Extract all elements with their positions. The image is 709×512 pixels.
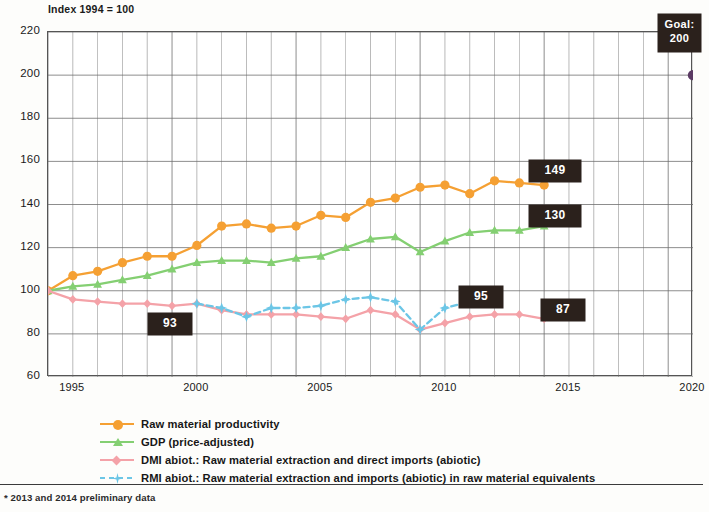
x-axis-tick-2005: 2005 [290,381,350,393]
data-point-marker [69,295,77,304]
data-point-marker [365,292,376,303]
badge-dmi-1999: 93 [148,313,192,335]
data-point-marker [515,178,524,187]
chart-axis-title: Index 1994 = 100 [48,3,134,15]
x-axis-tick-1995: 1995 [42,381,102,393]
data-point-marker [391,193,400,202]
data-point-marker [490,176,499,185]
data-point-marker [341,213,350,222]
data-point-marker [340,294,351,305]
legend-label: Raw material productivity [141,418,280,430]
legend-label: DMI abiot.: Raw material extraction and … [141,454,481,466]
data-point-marker [168,301,176,310]
data-point-marker [291,221,300,230]
data-point-marker [440,303,451,314]
goal-point-marker [688,70,693,80]
data-point-marker [315,300,326,311]
legend-key-icon [100,417,134,431]
badge-dmi-2014: 87 [541,299,585,321]
badge-gdp-2014: 130 [529,205,581,227]
y-axis-tick-160: 160 [0,153,40,165]
badge-productivity-2014: 149 [529,160,581,182]
x-axis-tick-2010: 2010 [414,381,474,393]
y-axis-tick-180: 180 [0,110,40,122]
legend-label: GDP (price-adjusted) [141,436,254,448]
chart-legend: Raw material productivityGDP (price-adju… [100,415,660,487]
data-point-marker [515,310,523,319]
data-point-marker [118,299,126,308]
data-point-marker [192,241,201,250]
legend-key-icon [100,435,134,449]
data-point-marker [366,198,375,207]
y-axis-tick-220: 220 [0,24,40,36]
y-axis-tick-140: 140 [0,197,40,209]
chart-footnote: * 2013 and 2014 preliminary data [4,492,155,503]
goal-badge-label: Goal: [658,18,701,32]
legend-marker-star [112,473,123,484]
data-point-marker [93,267,102,276]
data-point-marker [167,252,176,261]
legend-item-raw-material-productivity[interactable]: Raw material productivity [100,415,660,433]
data-point-marker [242,219,251,228]
data-point-marker [143,299,151,308]
legend-key-icon [100,471,134,485]
data-point-marker [465,189,474,198]
y-axis-tick-200: 200 [0,67,40,79]
badge-goal-2020: Goal:200 [658,14,701,52]
data-point-marker [316,211,325,220]
badge-rmi-2011: 95 [459,286,503,308]
data-point-marker [491,310,499,319]
data-point-marker [118,258,127,267]
x-axis-tick-2015: 2015 [538,381,598,393]
legend-marker-diamond [112,456,122,466]
legend-item-dmi[interactable]: DMI abiot.: Raw material extraction and … [100,451,660,469]
data-point-marker [391,310,399,319]
goal-badge-value: 200 [658,32,701,46]
legend-key-icon [100,453,134,467]
data-point-marker [191,298,202,309]
data-point-marker [342,314,350,323]
y-axis-tick-120: 120 [0,240,40,252]
series-gdp-price-adjusted- [48,221,549,294]
data-point-marker [267,224,276,233]
y-axis-tick-60: 60 [0,369,40,381]
data-point-marker [94,297,102,306]
data-point-marker [266,303,277,314]
legend-item-gdp[interactable]: GDP (price-adjusted) [100,433,660,451]
legend-label: RMI abiot.: Raw material extraction and … [141,472,595,484]
data-point-marker [441,319,449,328]
data-point-marker [440,180,449,189]
data-point-marker [143,252,152,261]
legend-marker-triangle [113,438,123,446]
legend-divider [0,484,703,485]
legend-marker-circle [113,420,123,430]
data-point-marker [217,221,226,230]
plot-area [47,31,692,376]
plot-svg [48,32,693,377]
data-point-marker [466,312,474,321]
data-point-marker [367,306,375,315]
x-axis-tick-2020: 2020 [662,381,709,393]
y-axis-tick-100: 100 [0,283,40,295]
x-axis-tick-2000: 2000 [166,381,226,393]
data-point-marker [291,303,302,314]
data-point-marker [68,271,77,280]
data-point-marker [390,296,401,307]
data-point-marker [416,183,425,192]
y-axis-tick-80: 80 [0,326,40,338]
series-line [197,297,470,329]
data-point-marker [317,312,325,321]
